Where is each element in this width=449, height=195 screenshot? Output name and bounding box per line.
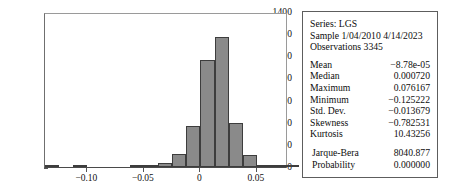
- histogram-bar: [144, 165, 158, 167]
- stat-row: Skewness−0.782531: [310, 117, 430, 129]
- x-tick-mark: [199, 168, 200, 172]
- x-tick-label: 0: [179, 174, 219, 184]
- x-tick-mark: [86, 168, 87, 172]
- plot-frame: [44, 13, 287, 168]
- histogram-bar: [130, 165, 144, 167]
- stat-row: Std. Dev.−0.013679: [310, 105, 430, 117]
- stat-value: 0.000000: [394, 159, 430, 171]
- stat-value: −8.78e-05: [390, 59, 430, 71]
- stat-row: Minimum−0.125222: [310, 94, 430, 106]
- stat-value: 8040.877: [394, 147, 430, 159]
- stat-value: 0.076167: [394, 82, 430, 94]
- x-tick-label: −0.05: [123, 174, 163, 184]
- histogram-bar: [271, 165, 285, 167]
- x-tick-label: 0.05: [236, 174, 276, 184]
- histogram-bar: [215, 37, 229, 167]
- observations-line: Observations 3345: [310, 41, 437, 53]
- normality-test-table: Jarque-Bera8040.877Probability0.000000: [303, 147, 437, 170]
- sample-line: Sample 1/04/2010 4/14/2023: [310, 30, 437, 42]
- stat-value: −0.125222: [388, 94, 430, 106]
- stats-header: Series: LGS Sample 1/04/2010 4/14/2023 O…: [303, 18, 437, 53]
- stat-row: Mean−8.78e-05: [310, 59, 430, 71]
- histogram-bar: [285, 165, 299, 167]
- stat-label: Kurtosis: [310, 128, 343, 140]
- chart-area: 0200400600800100012001400 −0.10−0.0500.0…: [0, 0, 292, 195]
- stat-label: Mean: [310, 59, 332, 71]
- statistics-panel: Series: LGS Sample 1/04/2010 4/14/2023 O…: [302, 11, 438, 178]
- y-tick-mark: [44, 168, 48, 169]
- test-row: Jarque-Bera8040.877: [312, 147, 430, 159]
- stat-row: Median0.000720: [310, 70, 430, 82]
- histogram-bar: [200, 60, 214, 167]
- histogram-bar: [158, 163, 172, 167]
- histogram-bar: [243, 155, 257, 167]
- stat-label: Skewness: [310, 117, 348, 129]
- stat-row: Maximum0.076167: [310, 82, 430, 94]
- x-tick-label: −0.10: [66, 174, 106, 184]
- stat-value: 10.43256: [394, 128, 430, 140]
- histogram-bars: [45, 14, 286, 167]
- stat-value: 0.000720: [394, 70, 430, 82]
- histogram-bar: [257, 165, 271, 167]
- stat-value: −0.013679: [388, 105, 430, 117]
- histogram-bar: [229, 123, 243, 167]
- x-tick-mark: [256, 168, 257, 172]
- stat-label: Maximum: [310, 82, 350, 94]
- stat-row: Kurtosis10.43256: [310, 128, 430, 140]
- histogram-bar: [73, 165, 87, 167]
- stat-label: Std. Dev.: [310, 105, 346, 117]
- stat-value: −0.782531: [388, 117, 430, 129]
- x-tick-mark: [143, 168, 144, 172]
- histogram-bar: [45, 165, 59, 167]
- stat-label: Median: [310, 70, 340, 82]
- histogram-bar: [186, 126, 200, 167]
- descriptive-stats-table: Mean−8.78e-05Median0.000720Maximum0.0761…: [303, 59, 437, 140]
- stat-label: Probability: [312, 159, 355, 171]
- test-row: Probability0.000000: [312, 159, 430, 171]
- stat-label: Jarque-Bera: [312, 147, 359, 159]
- stat-label: Minimum: [310, 94, 349, 106]
- histogram-figure: 0200400600800100012001400 −0.10−0.0500.0…: [0, 0, 449, 195]
- histogram-bar: [172, 154, 186, 167]
- series-line: Series: LGS: [310, 18, 437, 30]
